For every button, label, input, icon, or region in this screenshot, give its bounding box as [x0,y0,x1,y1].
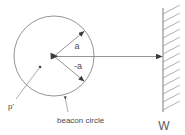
label-beacon-circle: beacon circle [57,116,105,125]
label-radius-upper: a [74,41,79,51]
figure-container: a -a p' beacon circle W [0,0,185,135]
beacon-circle-diagram: a -a p' beacon circle W [0,0,185,135]
label-wall: W [158,119,170,133]
label-point-p: p' [8,102,14,111]
label-radius-lower: -a [74,61,82,71]
wall-hatching [163,5,180,110]
point-p-leader-line [16,67,40,99]
radius-arrow-upper [55,32,84,56]
